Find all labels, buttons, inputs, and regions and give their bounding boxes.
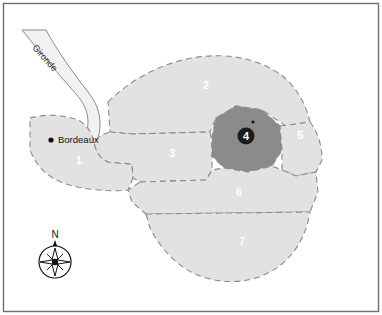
region-1-label: 1 (76, 154, 82, 166)
region-7-label: 7 (239, 235, 245, 247)
city-label: Bordeaux (58, 134, 99, 145)
region-5[interactable]: 5 (280, 122, 322, 176)
compass-north-label: N (51, 229, 58, 240)
city-dot-icon (48, 137, 53, 142)
map-figure: Gironde 1 2 3 4 5 (0, 0, 382, 315)
region-5-label: 5 (297, 129, 303, 141)
region-6-label: 6 (236, 186, 242, 198)
map-canvas: Gironde 1 2 3 4 5 (0, 0, 382, 315)
settlement-dot (251, 120, 254, 123)
region-2-label: 2 (203, 79, 209, 91)
region-3-label: 3 (169, 147, 175, 159)
region-4-label: 4 (243, 130, 250, 142)
